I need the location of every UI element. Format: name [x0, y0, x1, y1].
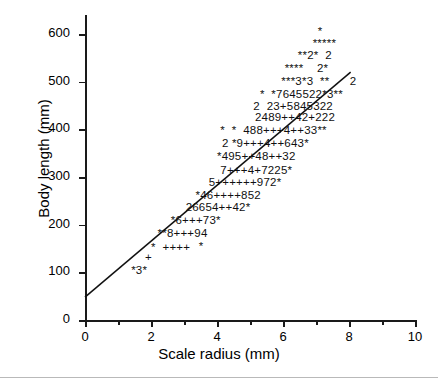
data-point-row: **** 2*: [285, 63, 329, 75]
x-axis-tick-label: 6: [263, 329, 303, 344]
y-axis-tick-label: 100: [48, 263, 70, 278]
data-point-row: *: [199, 241, 204, 253]
x-axis-tick-label: 8: [329, 329, 369, 344]
data-point-row: **2* 2: [298, 51, 332, 63]
x-axis-minor-tick: [118, 320, 120, 325]
data-point-row: ***3*3 ** 2: [281, 76, 356, 88]
data-point-row: *: [318, 26, 323, 38]
x-axis-tick: 8: [349, 320, 351, 327]
scatter-plot-figure: Body length (mm) Scale radius (mm) 01002…: [0, 0, 438, 387]
data-point-row: **8+++94: [158, 228, 208, 240]
y-axis-tick-label: 200: [48, 216, 70, 231]
data-point-row: 26654++42*: [186, 203, 251, 215]
y-axis-title: Body length (mm): [35, 34, 52, 284]
data-point-row: *6+++73*: [171, 216, 221, 228]
x-axis-tick: 4: [217, 320, 219, 327]
x-axis-tick: 2: [151, 320, 153, 327]
x-axis-tick-label: 10: [395, 329, 435, 344]
data-point-row: *495++48++32: [217, 152, 296, 164]
x-axis-minor-tick: [382, 320, 384, 325]
x-axis-tick: 6: [283, 320, 285, 327]
x-axis-tick-label: 0: [65, 329, 105, 344]
data-point-row: *3*: [131, 265, 147, 277]
data-point-row: * ++++: [151, 242, 190, 254]
data-point-row: *46++++852: [196, 190, 261, 202]
data-point-row: 7+++4+7225*: [220, 165, 292, 177]
x-axis-tick: 10: [415, 320, 417, 327]
y-axis-tick-label: 300: [48, 168, 70, 183]
x-axis-tick-label: 4: [197, 329, 237, 344]
plot-area: 0100200300400500600 0246810 ********2* 2…: [85, 15, 415, 320]
x-axis-tick-label: 2: [131, 329, 171, 344]
data-point-row: 2489++42+222: [255, 112, 335, 124]
data-point-row: 5++++++972*: [209, 177, 282, 189]
y-axis-tick-label: 600: [48, 25, 70, 40]
y-axis-tick-label: 500: [48, 73, 70, 88]
x-axis-minor-tick: [184, 320, 186, 325]
y-axis-tick-label: 400: [48, 120, 70, 135]
data-point-row: * *7645522*3**: [260, 89, 343, 101]
x-axis-minor-tick: [316, 320, 318, 325]
data-point-row: +: [145, 252, 152, 264]
x-axis-tick: 0: [85, 320, 87, 327]
y-axis-tick-label: 0: [63, 311, 70, 326]
data-point-row: * * 488+++4++33**: [220, 125, 326, 137]
x-axis-title: Scale radius (mm): [0, 345, 438, 362]
page-separator-rule: [0, 377, 438, 378]
x-axis-minor-tick: [250, 320, 252, 325]
data-point-row: *****: [313, 38, 336, 50]
data-point-row: 2 *9+++4++643*: [222, 138, 309, 150]
